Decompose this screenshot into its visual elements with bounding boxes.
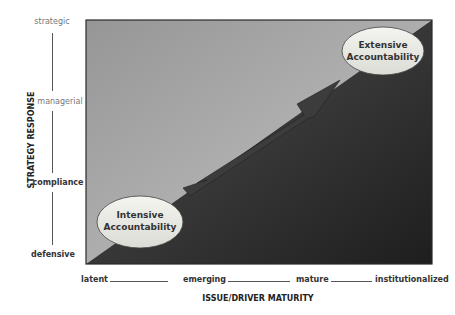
x-axis-connector (110, 281, 168, 282)
x-level-latent: latent (81, 275, 108, 284)
extensive-accountability-label: Extensive Accountability (342, 39, 424, 63)
x-level-mature: mature (296, 275, 329, 284)
x-level-institutionalized: institutionalized (375, 275, 449, 284)
intensive-line1: Intensive (97, 209, 183, 221)
x-level-emerging: emerging (183, 275, 226, 284)
x-axis-title: ISSUE/DRIVER MATURITY (202, 294, 313, 303)
extensive-line2: Accountability (342, 51, 424, 63)
extensive-line1: Extensive (342, 39, 424, 51)
x-axis-connector (228, 281, 290, 282)
x-axis-connector (331, 281, 372, 282)
intensive-accountability-label: Intensive Accountability (97, 209, 183, 233)
intensive-line2: Accountability (97, 221, 183, 233)
